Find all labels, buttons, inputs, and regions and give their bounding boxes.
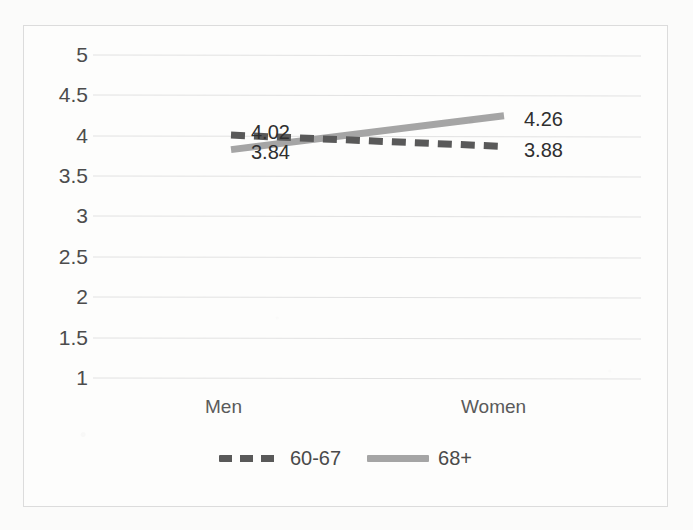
legend-swatch-dashed-icon [219, 455, 281, 462]
data-label-women-60-67: 3.88 [524, 139, 563, 162]
data-label-men-68plus: 3.84 [251, 141, 290, 164]
x-axis-tick-women: Women [461, 396, 526, 418]
legend-item-68plus[interactable]: 68+ [367, 447, 472, 470]
legend-item-60-67[interactable]: 60-67 [219, 447, 341, 470]
gridlines [93, 55, 641, 379]
legend-swatch-solid-icon [367, 455, 429, 462]
x-axis-tick-men: Men [205, 396, 242, 418]
legend-label-68plus: 68+ [438, 447, 472, 470]
data-label-women-68plus: 4.26 [524, 108, 563, 131]
legend-label-60-67: 60-67 [290, 447, 341, 470]
chart-legend: 60-67 68+ [23, 447, 668, 470]
